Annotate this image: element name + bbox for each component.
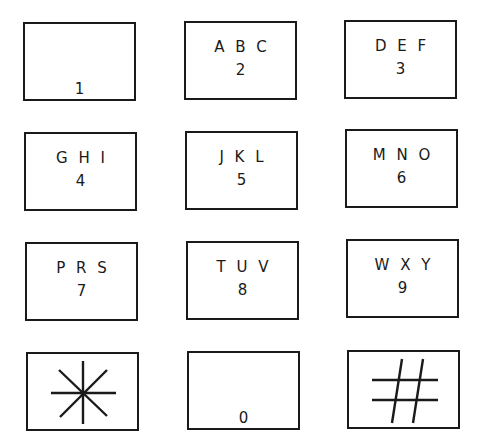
key-letters: T U V xyxy=(188,259,297,275)
key-1[interactable]: 1 xyxy=(23,22,136,101)
telephone-keypad: 1 A B C 2 D E F 3 G H I 4 J K L 5 M N O … xyxy=(0,0,484,448)
key-digit: 3 xyxy=(346,61,455,77)
key-letters: P R S xyxy=(27,260,136,276)
key-digit: 1 xyxy=(25,81,134,97)
key-digit: 6 xyxy=(347,170,456,186)
key-letters: W X Y xyxy=(348,257,457,273)
key-9[interactable]: W X Y 9 xyxy=(346,239,459,318)
key-4[interactable]: G H I 4 xyxy=(24,132,137,211)
key-digit: 9 xyxy=(348,280,457,296)
key-letters: A B C xyxy=(186,39,295,55)
key-5[interactable]: J K L 5 xyxy=(185,131,298,210)
key-letters: G H I xyxy=(26,150,135,166)
key-digit: 8 xyxy=(188,282,297,298)
key-star[interactable] xyxy=(26,352,139,431)
key-digit: 0 xyxy=(189,410,298,426)
key-letters: D E F xyxy=(346,38,455,54)
hash-icon xyxy=(349,352,457,426)
key-digit: 7 xyxy=(27,283,136,299)
key-3[interactable]: D E F 3 xyxy=(344,20,457,99)
key-digit: 2 xyxy=(186,62,295,78)
key-2[interactable]: A B C 2 xyxy=(184,21,297,100)
key-6[interactable]: M N O 6 xyxy=(345,129,458,208)
key-hash[interactable] xyxy=(347,350,460,429)
key-0[interactable]: 0 xyxy=(187,351,300,430)
asterisk-icon xyxy=(28,354,136,428)
key-digit: 4 xyxy=(26,173,135,189)
key-8[interactable]: T U V 8 xyxy=(186,241,299,320)
key-digit: 5 xyxy=(187,172,296,188)
key-letters: M N O xyxy=(347,147,456,163)
key-letters: J K L xyxy=(187,149,296,165)
key-7[interactable]: P R S 7 xyxy=(25,242,138,321)
